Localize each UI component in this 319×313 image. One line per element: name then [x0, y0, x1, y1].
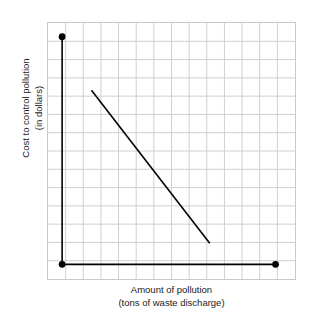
- y-axis-title-line1: Cost to control pollution: [19, 28, 32, 188]
- grid-lines: [48, 23, 295, 279]
- y-axis-title-line2: (in dollars): [32, 28, 45, 188]
- x-axis-title-line1: Amount of pollution: [47, 283, 296, 296]
- y-axis-title: Cost to control pollution (in dollars): [19, 28, 45, 188]
- chart-figure: Amount of pollution (tons of waste disch…: [0, 0, 319, 313]
- x-axis-title: Amount of pollution (tons of waste disch…: [47, 283, 296, 309]
- x-axis-title-line2: (tons of waste discharge): [47, 296, 296, 309]
- plot-area: [47, 22, 296, 280]
